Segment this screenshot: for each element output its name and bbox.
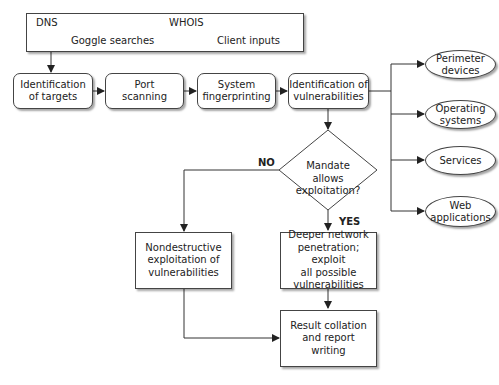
arrow-nondestructive-to-result: [184, 288, 279, 338]
decision-question: Mandate allows exploitation?: [288, 160, 368, 198]
source-dns: DNS: [36, 17, 58, 28]
target-perimeter-devices: Perimeter devices: [425, 50, 496, 79]
source-google-searches: Goggle searches: [71, 35, 154, 46]
no-label: NO: [258, 157, 275, 168]
source-whois: WHOIS: [169, 17, 204, 28]
source-client-inputs: Client inputs: [217, 35, 280, 46]
target-operating-systems: Operating systems: [425, 100, 496, 129]
node-nondestructive-exploitation: Nondestructive exploitation of vulnerabi…: [135, 232, 232, 289]
node-system-fingerprinting: System fingerprinting: [197, 73, 276, 109]
node-deeper-network-penetration: Deeper network penetration; exploit all …: [280, 232, 377, 289]
node-result-collation: Result collation and report writing: [280, 310, 377, 367]
yes-label: YES: [339, 216, 360, 227]
information-sources-box: DNS WHOIS Goggle searches Client inputs: [26, 13, 304, 52]
target-web-applications: Web applications: [425, 196, 496, 227]
target-services: Services: [425, 146, 496, 175]
node-port-scanning: Port scanning: [105, 73, 184, 109]
node-identification-of-targets: Identification of targets: [13, 73, 93, 109]
node-identification-of-vulnerabilities: Identification of vulnerabilities: [288, 73, 369, 109]
connector-layer: [0, 0, 499, 385]
arrow-no-branch: [184, 170, 279, 231]
